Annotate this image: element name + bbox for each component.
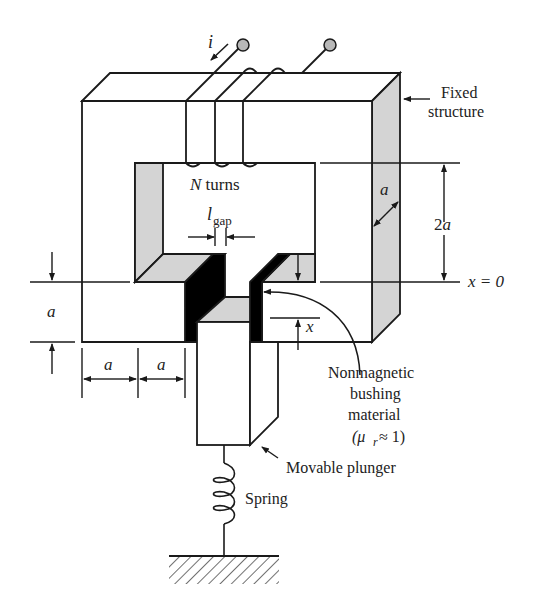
bushing-label-1: Nonmagnetic bbox=[328, 364, 414, 382]
fixed-structure-label-1: Fixed bbox=[441, 84, 477, 101]
core-right-face bbox=[372, 73, 400, 342]
height-2a-label: 2a bbox=[434, 215, 451, 234]
x-displacement-label: x bbox=[305, 317, 314, 336]
bushing-label-4b: ≈ 1) bbox=[379, 428, 405, 446]
bushing-label-2: bushing bbox=[350, 385, 401, 403]
spring bbox=[214, 445, 235, 556]
bottom-a-label-2: a bbox=[157, 355, 166, 374]
n-turns-label: N turns bbox=[189, 175, 240, 194]
x-zero-label: x = 0 bbox=[467, 272, 505, 291]
lgap-subscript: gap bbox=[213, 213, 232, 228]
spring-label: Spring bbox=[245, 490, 288, 508]
current-arrow bbox=[211, 44, 228, 60]
bottom-a-label-1: a bbox=[104, 355, 113, 374]
bushing-label-3: material bbox=[348, 406, 401, 423]
plunger-side bbox=[250, 342, 278, 445]
plunger-label: Movable plunger bbox=[286, 459, 396, 477]
actuator-diagram: i Fixed structure N turns l gap a 2a x =… bbox=[0, 0, 534, 605]
bushing-label-sub: r bbox=[373, 435, 378, 449]
lgap-dimension bbox=[188, 228, 255, 246]
terminal-right bbox=[324, 39, 336, 51]
depth-a-label: a bbox=[380, 180, 389, 199]
ground bbox=[169, 556, 279, 584]
fixed-structure-label-2: structure bbox=[428, 103, 484, 120]
plunger-front bbox=[197, 322, 250, 445]
bottom-a-dimensions bbox=[82, 348, 185, 398]
left-a-label: a bbox=[47, 302, 56, 321]
bushing-label-4: (μ bbox=[352, 428, 365, 446]
core-top-face bbox=[82, 73, 400, 101]
plunger-arrow bbox=[262, 447, 278, 458]
current-label: i bbox=[208, 32, 213, 52]
terminal-left bbox=[237, 39, 249, 51]
lgap-label: l bbox=[207, 204, 212, 224]
